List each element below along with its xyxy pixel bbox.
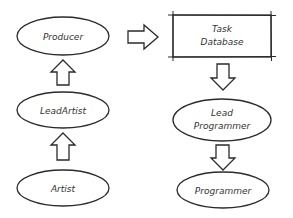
lead-programmer-label-line1: Lead <box>211 108 233 118</box>
node-lead-programmer: Lead Programmer <box>173 99 271 141</box>
node-programmer: Programmer <box>177 172 269 208</box>
task-database-label-line2: Database <box>201 37 244 47</box>
right-arrow-icon <box>128 25 158 49</box>
workflow-diagram: Producer LeadArtist Artist Task Database… <box>0 0 293 218</box>
programmer-label: Programmer <box>195 186 253 196</box>
up-arrow-icon <box>51 60 75 85</box>
node-lead-artist: LeadArtist <box>17 92 109 128</box>
node-task-database: Task Database <box>168 11 276 61</box>
lead-artist-label: LeadArtist <box>40 106 86 116</box>
node-artist: Artist <box>17 170 109 206</box>
node-producer: Producer <box>17 17 109 55</box>
artist-label: Artist <box>50 184 76 194</box>
up-arrow-icon <box>51 133 75 160</box>
lead-programmer-label-line2: Programmer <box>194 121 252 131</box>
down-arrow-icon <box>211 145 235 170</box>
producer-label: Producer <box>43 32 85 42</box>
task-database-label-line1: Task <box>212 24 233 34</box>
down-arrow-icon <box>211 64 235 90</box>
